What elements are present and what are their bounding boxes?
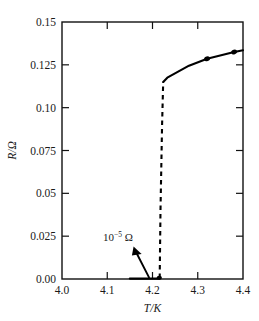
xtick-label-2: 4.2 (145, 284, 160, 296)
ytick-label-1: 0.025 (30, 230, 56, 242)
xtick-label-1: 4.1 (100, 284, 115, 296)
ytick-label-3: 0.075 (30, 145, 56, 157)
annotation-unit: Ω (125, 231, 133, 243)
ytick-label-5: 0.125 (30, 59, 56, 71)
figure-container: 0.00 0.025 0.05 0.075 0.10 0.125 0.15 4.… (0, 0, 259, 321)
y-axis-title: R/Ω (6, 141, 18, 161)
ytick-label-6: 0.15 (36, 16, 56, 28)
x-axis-title: T/K (144, 302, 163, 314)
ytick-label-2: 0.05 (36, 187, 56, 199)
ytick-label-4: 0.10 (36, 102, 56, 114)
xtick-label-0: 4.0 (55, 284, 70, 296)
annotation-exponent: −5 (114, 230, 122, 239)
xtick-label-4: 4.4 (236, 284, 251, 296)
xtick-label-3: 4.3 (191, 284, 206, 296)
annotation-mantissa: 10 (103, 231, 115, 243)
resistance-temperature-chart: 0.00 0.025 0.05 0.075 0.10 0.125 0.15 4.… (0, 0, 259, 321)
ytick-label-0: 0.00 (36, 273, 56, 285)
